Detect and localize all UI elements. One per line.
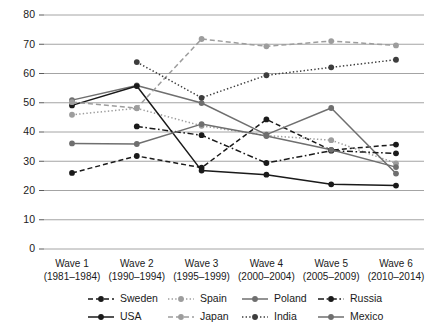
data-point-japan-5 <box>328 38 334 44</box>
data-point-india-3 <box>199 95 205 101</box>
data-point-india-5 <box>328 64 334 70</box>
data-point-sweden-2 <box>134 153 140 159</box>
legend-label-india[interactable]: India <box>274 310 297 322</box>
x-axis-tick-sublabel: (1990–1994) <box>108 271 165 282</box>
data-point-mexico-4 <box>264 133 270 139</box>
y-axis-tick-label: 60 <box>23 67 35 79</box>
legend-marker-poland <box>252 296 258 302</box>
data-point-russia-2 <box>134 124 140 130</box>
data-point-japan-3 <box>199 36 205 42</box>
data-point-sweden-4 <box>264 117 270 123</box>
x-axis-tick-label: Wave 1 <box>55 258 89 269</box>
x-axis-tick-sublabel: (1995–1999) <box>173 271 230 282</box>
legend-label-mexico[interactable]: Mexico <box>350 310 383 322</box>
x-axis-tick-label: Wave 2 <box>120 258 154 269</box>
data-point-japan-6 <box>393 43 399 49</box>
x-axis-tick-sublabel: (1981–1984) <box>44 271 101 282</box>
chart-canvas: 01020304050607080 Wave 1(1981–1984)Wave … <box>0 0 438 335</box>
y-axis-ticks: 01020304050607080 <box>23 8 44 254</box>
legend-marker-spain <box>178 296 184 302</box>
data-point-poland-5 <box>328 105 334 111</box>
legend-label-russia[interactable]: Russia <box>350 292 382 304</box>
line-chart: 01020304050607080 Wave 1(1981–1984)Wave … <box>0 0 438 335</box>
data-point-usa-5 <box>328 181 334 187</box>
legend-marker-russia <box>328 296 334 302</box>
legend-marker-india <box>252 314 258 320</box>
legend-label-sweden[interactable]: Sweden <box>120 292 158 304</box>
data-point-mexico-2 <box>134 141 140 147</box>
data-point-poland-6 <box>393 171 399 177</box>
data-point-mexico-5 <box>328 147 334 153</box>
data-point-india-2 <box>134 59 140 65</box>
data-point-spain-1 <box>69 112 75 118</box>
y-axis-tick-label: 70 <box>23 38 35 50</box>
x-axis-ticks: Wave 1(1981–1984)Wave 2(1990–1994)Wave 3… <box>44 258 425 282</box>
y-axis-tick-label: 50 <box>23 96 35 108</box>
x-axis-tick-label: Wave 4 <box>250 258 284 269</box>
y-axis-tick-label: 30 <box>23 155 35 167</box>
data-point-spain-5 <box>328 137 334 143</box>
data-point-mexico-1 <box>69 141 75 147</box>
x-axis-tick-sublabel: (2005–2009) <box>303 271 360 282</box>
data-point-usa-2 <box>134 83 140 89</box>
data-point-japan-4 <box>264 43 270 49</box>
data-point-india-6 <box>393 57 399 63</box>
y-axis-tick-label: 20 <box>23 184 35 196</box>
legend-marker-usa <box>98 314 104 320</box>
series-line-india <box>137 60 396 98</box>
y-axis-tick-label: 40 <box>23 125 35 137</box>
y-axis-tick-label: 80 <box>23 8 35 20</box>
data-point-usa-6 <box>393 183 399 189</box>
data-point-russia-6 <box>393 150 399 156</box>
legend-marker-japan <box>178 314 184 320</box>
series-line-spain <box>72 108 396 163</box>
legend-label-spain[interactable]: Spain <box>200 292 227 304</box>
data-point-japan-2 <box>134 105 140 111</box>
y-axis-tick-label: 10 <box>23 213 35 225</box>
y-axis-tick-label: 0 <box>29 242 35 254</box>
data-point-mexico-3 <box>199 121 205 127</box>
data-point-poland-3 <box>199 100 205 106</box>
chart-legend: SwedenSpainPolandRussiaUSAJapanIndiaMexi… <box>88 292 383 322</box>
data-point-usa-4 <box>264 172 270 178</box>
data-point-russia-3 <box>199 132 205 138</box>
legend-label-usa[interactable]: USA <box>120 310 142 322</box>
data-point-sweden-6 <box>393 142 399 148</box>
legend-marker-mexico <box>328 314 334 320</box>
data-point-india-4 <box>264 72 270 78</box>
data-point-usa-3 <box>199 168 205 174</box>
series-line-sweden <box>72 119 396 173</box>
data-markers-group <box>69 36 399 188</box>
legend-marker-sweden <box>98 296 104 302</box>
legend-label-poland[interactable]: Poland <box>274 292 307 304</box>
x-axis-tick-label: Wave 6 <box>379 258 413 269</box>
data-point-japan-1 <box>69 99 75 105</box>
data-point-mexico-6 <box>393 164 399 170</box>
data-point-sweden-1 <box>69 170 75 176</box>
x-axis-tick-label: Wave 3 <box>185 258 219 269</box>
x-axis-tick-label: Wave 5 <box>314 258 348 269</box>
legend-label-japan[interactable]: Japan <box>200 310 229 322</box>
x-axis-tick-sublabel: (2000–2004) <box>238 271 295 282</box>
gridlines <box>44 15 424 249</box>
x-axis-tick-sublabel: (2010–2014) <box>368 271 425 282</box>
series-line-usa <box>72 86 396 185</box>
data-point-russia-4 <box>264 160 270 166</box>
data-series-group <box>72 39 396 186</box>
